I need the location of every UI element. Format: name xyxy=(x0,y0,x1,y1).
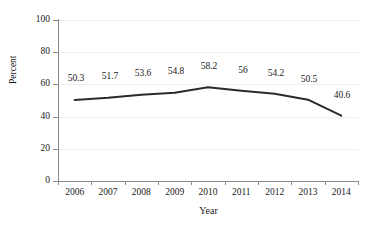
line-chart: 100 80 60 40 20 0 2006 2007 2008 2009 20… xyxy=(0,0,375,230)
series-line-svg xyxy=(0,0,375,230)
series-line-percent xyxy=(75,87,342,115)
